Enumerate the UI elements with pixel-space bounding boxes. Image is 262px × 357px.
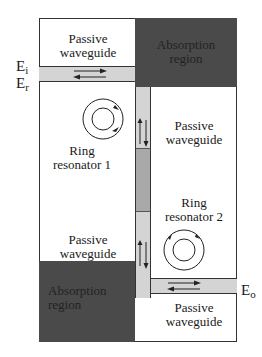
passive-waveguide-label-top-left: Passive waveguide	[42, 32, 134, 60]
reflected-field-label: Er	[16, 75, 29, 95]
vertical-bidirectional-arrows-icon-upper	[135, 118, 151, 148]
absorption-label-top-right: Absorption region	[135, 38, 237, 66]
passive-waveguide-label-bottom-left: Passive waveguide	[42, 233, 134, 261]
ring-resonator-1-label: Ring resonator 1	[42, 144, 122, 172]
ring-resonator-2-icon	[159, 225, 209, 275]
passive-waveguide-label-mid-right: Passive waveguide	[152, 119, 236, 147]
ring-resonator-1-icon	[78, 94, 128, 144]
absorption-label-bottom-left: Absorption region	[48, 284, 128, 312]
output-bidirectional-arrows-icon	[164, 278, 204, 294]
coupling-waveguide-middle-section	[135, 148, 151, 212]
output-field-label: Eo	[241, 282, 256, 302]
passive-waveguide-label-bottom-right: Passive waveguide	[152, 301, 236, 329]
ring-resonator-2-label: Ring resonator 2	[152, 196, 236, 224]
bidirectional-arrows-icon	[70, 66, 110, 82]
vertical-bidirectional-arrows-icon-lower	[135, 240, 151, 270]
